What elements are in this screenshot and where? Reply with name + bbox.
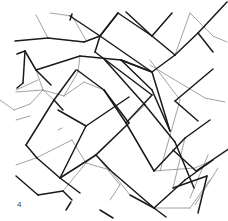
heavy-crease-line [175, 101, 198, 121]
heavy-crease-line [154, 180, 185, 208]
heavy-crease-line [26, 145, 37, 158]
heavy-crease-line [198, 2, 227, 33]
heavy-crease-line [173, 150, 196, 171]
heavy-crease-line [36, 56, 80, 70]
heavy-crease-line [15, 38, 48, 41]
heavy-crease-line [145, 105, 175, 142]
heavy-crease-line [152, 72, 170, 131]
light-crease-line [30, 90, 43, 104]
light-crease-line [16, 90, 43, 92]
light-crease-line [16, 116, 30, 120]
light-crease-line [63, 163, 86, 191]
light-crease-line [213, 36, 227, 42]
light-crease-line [0, 100, 14, 110]
heavy-crease-line [70, 14, 72, 20]
heavy-crease-line [84, 36, 100, 42]
heavy-crease-line [77, 70, 104, 90]
heavy-crease-line [63, 191, 72, 200]
heavy-crease-line [54, 100, 63, 110]
light-crease-line [14, 104, 30, 110]
panel-label: 4 [17, 200, 21, 210]
heavy-crease-line [86, 97, 129, 126]
heavy-crease-line [100, 210, 113, 218]
heavy-crease-line [152, 13, 172, 36]
heavy-crease-line [175, 33, 198, 55]
heavy-crease-line [66, 202, 71, 210]
heavy-crease-line [126, 123, 154, 171]
heavy-crease-lines [15, 2, 228, 218]
light-crease-line [195, 168, 218, 205]
heavy-crease-line [196, 148, 228, 171]
light-crease-line [36, 140, 72, 158]
tessellation-diagram [0, 0, 228, 221]
light-crease-line [110, 185, 120, 200]
heavy-crease-line [175, 69, 213, 101]
heavy-crease-line [26, 100, 54, 145]
light-crease-line [78, 56, 80, 72]
light-crease-line [16, 80, 38, 90]
light-crease-line [190, 13, 213, 36]
heavy-crease-line [23, 51, 25, 83]
heavy-crease-line [95, 36, 100, 52]
heavy-crease-line [126, 12, 152, 36]
heavy-crease-line [110, 170, 154, 208]
heavy-crease-line [198, 33, 213, 52]
heavy-crease-line [25, 51, 36, 70]
light-crease-line [36, 15, 48, 38]
heavy-crease-line [185, 120, 210, 138]
heavy-crease-line [38, 191, 63, 195]
heavy-crease-line [58, 110, 86, 126]
heavy-crease-line [37, 158, 60, 178]
heavy-crease-line [154, 208, 166, 217]
heavy-crease-line [152, 36, 175, 55]
heavy-crease-line [96, 123, 129, 155]
light-crease-line [50, 13, 72, 16]
light-crease-lines [0, 13, 227, 208]
heavy-crease-line [152, 55, 175, 72]
light-crease-line [16, 158, 36, 165]
light-crease-line [58, 128, 62, 130]
heavy-crease-line [48, 38, 84, 42]
heavy-crease-line [17, 51, 25, 54]
heavy-crease-line [16, 176, 38, 195]
heavy-crease-line [100, 36, 152, 72]
light-crease-line [72, 140, 86, 163]
heavy-crease-line [70, 16, 100, 36]
light-crease-line [64, 82, 84, 96]
heavy-crease-line [100, 13, 118, 36]
heavy-crease-line [118, 13, 152, 36]
light-crease-line [205, 98, 225, 102]
light-crease-line [110, 170, 130, 195]
